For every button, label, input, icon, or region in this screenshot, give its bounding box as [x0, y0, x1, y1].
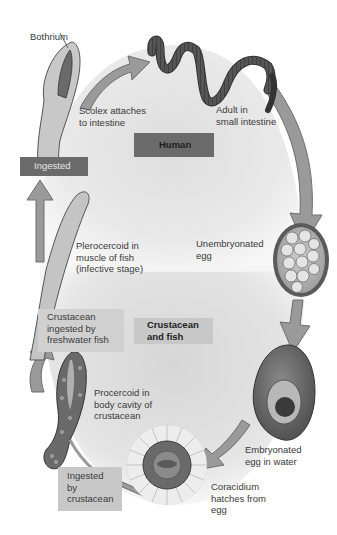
label-plerocercoid: Plerocercoid in muscle of fish (infectiv… — [76, 240, 143, 275]
label-embryonated-egg: Embryonated egg in water — [245, 444, 302, 467]
host-human: Human — [159, 139, 191, 151]
unembryonated-egg-illustration — [273, 223, 329, 297]
label-procercoid: Procercoid in body cavity of crustacean — [94, 387, 152, 422]
label-bothrium: Bothrium — [30, 31, 68, 43]
tapeworm-life-cycle-diagram: Bothrium Scolex attaches to intestine Ad… — [0, 0, 337, 535]
label-scolex: Scolex attaches to intestine — [79, 105, 146, 128]
label-ingested: Ingested — [34, 160, 70, 172]
coracidium-illustration — [127, 425, 207, 505]
host-crustacean-fish: Crustacean and fish — [147, 319, 199, 342]
label-coracidium: Coracidium hatches from egg — [211, 481, 266, 516]
label-crustacean-ingested: Crustacean ingested by freshwater fish — [47, 311, 109, 346]
label-adult: Adult in small intestine — [216, 104, 276, 127]
label-unembryonated-egg: Unembryonated egg — [196, 238, 264, 261]
label-ingested-by-crustacean: Ingested by crustacean — [67, 470, 113, 505]
